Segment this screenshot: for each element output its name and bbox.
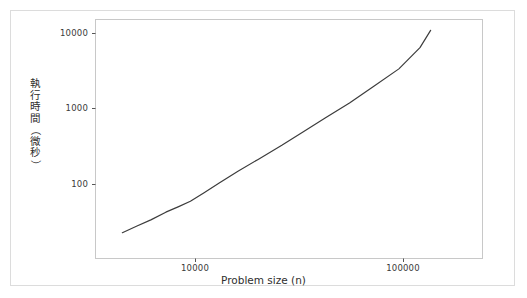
plot-canvas — [0, 0, 527, 298]
y-axis-ticks — [92, 34, 96, 185]
y-axis-title: 執行時間（微秒） — [27, 78, 43, 170]
x-axis-title: Problem size (n) — [0, 274, 527, 286]
x-tick-label-100000: 100000 — [386, 263, 420, 273]
y-axis-title-char: （ — [29, 122, 41, 138]
y-axis-title-char: ） — [29, 156, 41, 172]
chart-figure: 10000 1000 100 10000 100000 Problem size… — [0, 0, 527, 298]
y-tick-label-1000: 1000 — [50, 103, 88, 113]
plot-area-border — [96, 20, 483, 259]
x-tick-label-10000: 10000 — [181, 263, 209, 273]
y-tick-label-100: 100 — [50, 179, 88, 189]
y-tick-label-10000: 10000 — [50, 28, 88, 38]
y-axis-title-char: 時 — [27, 101, 43, 113]
x-axis-ticks — [196, 259, 404, 263]
y-axis-title-char: 執 — [27, 78, 43, 90]
